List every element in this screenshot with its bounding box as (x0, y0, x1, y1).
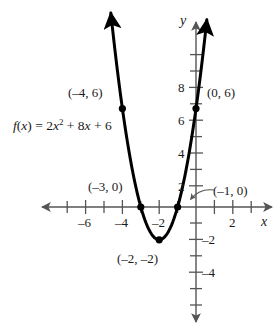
y-axis-label: y (180, 14, 186, 28)
x-tick-label-neg6: –6 (78, 216, 91, 229)
point-label-neg4-6: (–4, 6) (68, 86, 103, 99)
marker-point-neg3-0 (137, 203, 144, 210)
constant-term: + 6 (91, 118, 112, 133)
y-tick-label-2: 2 (178, 180, 185, 193)
linear-term-prefix: + 8 (63, 118, 84, 133)
point-label-neg1-0: (–1, 0) (213, 184, 248, 197)
scan-speckle-row: . . . . . . (4, 1, 92, 10)
graph-figure: . . . . . . –6 –4 –2 2 8 6 4 2 –2 –4 x y… (0, 0, 278, 332)
x-tick-label-neg4: –4 (115, 216, 128, 229)
marker-point-0-6 (192, 105, 199, 112)
y-tick-label-neg4: –4 (202, 266, 215, 279)
leader-arrow (191, 190, 215, 200)
y-tick-label-4: 4 (178, 147, 185, 160)
marker-point-neg4-6 (119, 105, 126, 112)
x-tick-label-neg2: –2 (152, 216, 165, 229)
y-tick-label-8: 8 (178, 81, 185, 94)
leader-arrow-path (191, 190, 215, 200)
equals-coefficient: = 2 (32, 118, 53, 133)
x-axis (42, 200, 272, 214)
point-label-vertex: (–2, –2) (117, 252, 158, 265)
point-label-neg3-0: (–3, 0) (88, 180, 123, 193)
marker-point-neg1-0 (174, 203, 181, 210)
marker-point-vertex (156, 236, 163, 243)
x-tick-label-pos2: 2 (229, 216, 236, 229)
point-label-0-6: (0, 6) (207, 86, 235, 99)
y-tick-label-6: 6 (178, 114, 185, 127)
y-tick-label-neg2: –2 (202, 233, 215, 246)
coordinate-plane-svg (0, 0, 278, 332)
function-equation-label: f(x) = 2x2 + 8x + 6 (13, 119, 112, 133)
x-axis-label: x (261, 215, 267, 229)
